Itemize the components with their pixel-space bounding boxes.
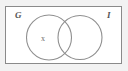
element-label-x: x <box>41 34 45 43</box>
set-label-g: G <box>15 10 22 20</box>
set-label-i: I <box>106 10 111 20</box>
venn-diagram-canvas: G I x <box>0 0 128 71</box>
venn-diagram-figure: G I x <box>0 0 128 71</box>
